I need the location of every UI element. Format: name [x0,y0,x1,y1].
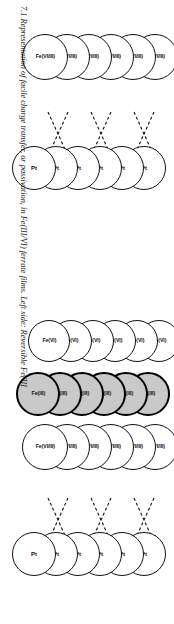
column-fe-iii: Fe(III) Fe(III) Fe(III) Fe(III) Fe(III) … [34,372,174,428]
circle-fe-vi: Fe(VI) [28,320,70,362]
passivation-diagram: Fe(VI/III) Fe(VI/III) Fe(VI/III) Fe(VI/I… [34,16,174,296]
reversible-charge-transfer-diagram: Fe(VI) Fe(VI) Fe(VI) Fe(VI) Fe(VI) Fe(VI… [34,320,174,612]
circle-label: Fe(VI/III) [35,54,54,59]
circle-label: Fe(VI) [42,338,56,343]
figure-area: Fe(VI/III) Fe(VI/III) Fe(VI/III) Fe(VI/I… [32,0,174,624]
column-fe-vi: Fe(VI) Fe(VI) Fe(VI) Fe(VI) Fe(VI) Fe(VI… [34,320,174,376]
circle-label: Fe(III) [31,391,45,396]
column-fe-vi-iii: Fe(VI/III) Fe(VI/III) Fe(VI/III) Fe(VI/I… [34,424,174,516]
column-fe-vi-iii: Fe(VI/III) Fe(VI/III) Fe(VI/III) Fe(VI/I… [34,34,174,126]
circle-label: Pt [31,165,37,171]
circle-fe-vi-iii: Fe(VI/III) [22,424,68,470]
column-pt: Pt Pt Pt Pt Pt Pt [34,146,174,206]
circle-label: Fe(VI/III) [35,444,54,449]
column-pt: Pt Pt Pt Pt Pt Pt [34,532,174,592]
figure-stage: Fe(VI/III) Fe(VI/III) Fe(VI/III) Fe(VI/I… [0,0,174,624]
figure-caption: 7.1 Representation of facile charge tran… [18,0,28,624]
circle-label: Pt [31,551,37,557]
circle-fe-vi-iii: Fe(VI/III) [22,34,68,80]
